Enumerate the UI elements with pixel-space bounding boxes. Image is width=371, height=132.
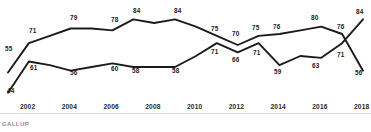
data-label: 75: [211, 26, 218, 32]
data-label: 63: [312, 63, 319, 69]
x-axis-tick-label: 2010: [187, 104, 202, 111]
data-label: 44: [7, 88, 14, 94]
x-axis-tick-label: 2018: [354, 104, 369, 111]
data-label: 60: [111, 66, 118, 72]
data-label: 71: [337, 52, 344, 58]
data-label: 58: [132, 68, 139, 74]
x-axis-tick-label: 2008: [145, 104, 160, 111]
x-axis-tick-label: 2002: [20, 104, 35, 111]
data-label: 76: [337, 24, 344, 30]
line-chart: 55717978848475707576807656 4461566058587…: [0, 0, 371, 132]
data-label: 84: [356, 9, 363, 15]
data-label: 79: [70, 15, 77, 21]
data-label: 66: [232, 57, 239, 63]
data-label: 70: [232, 31, 239, 37]
x-axis-rule: [0, 113, 371, 114]
data-label: 58: [172, 68, 179, 74]
data-label: 56: [70, 70, 77, 76]
x-axis-tick-label: 2016: [312, 104, 327, 111]
x-axis-tick-label: 2012: [229, 104, 244, 111]
data-label: 56: [355, 70, 362, 76]
data-label: 76: [273, 24, 280, 30]
x-axis-tick-label: 2014: [270, 104, 285, 111]
series-line-upper: [8, 19, 363, 72]
data-label: 71: [29, 28, 36, 34]
data-label: 59: [274, 69, 281, 75]
data-label: 75: [252, 25, 259, 31]
x-axis-tick-label: 2006: [103, 104, 118, 111]
data-label: 61: [30, 65, 37, 71]
data-label: 80: [311, 15, 318, 21]
data-label: 78: [111, 17, 118, 23]
data-label: 84: [133, 8, 140, 14]
source-note: GALLUP: [2, 121, 29, 127]
data-label: 71: [211, 49, 218, 55]
data-label: 55: [5, 46, 12, 52]
data-label: 84: [174, 8, 181, 14]
series-line-lower: [8, 19, 363, 92]
x-axis-tick-label: 2004: [62, 104, 77, 111]
data-label: 71: [253, 50, 260, 56]
